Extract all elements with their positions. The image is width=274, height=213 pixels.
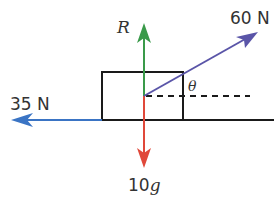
weight-number: 10 xyxy=(128,175,150,195)
arrowhead-diagonal-icon xyxy=(236,32,258,48)
weight-force-arrow xyxy=(137,96,151,168)
pull-force-label: 60 N xyxy=(230,10,270,27)
reaction-force-label: R xyxy=(117,19,130,36)
force-diagram: R 60 N 35 N θ 10g xyxy=(0,0,274,213)
reaction-force-arrow xyxy=(137,23,151,96)
angle-theta-label: θ xyxy=(188,79,196,93)
weight-symbol: g xyxy=(150,175,161,195)
friction-force-label: 35 N xyxy=(10,96,50,113)
weight-force-label: 10g xyxy=(128,177,161,194)
friction-force-arrow xyxy=(11,113,102,127)
pull-force-arrow xyxy=(144,32,258,96)
